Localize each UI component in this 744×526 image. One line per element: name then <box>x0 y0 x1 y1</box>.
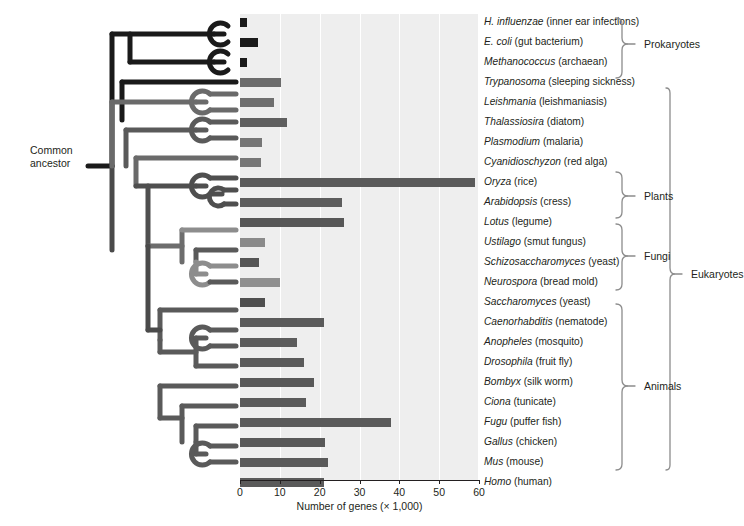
gridline-20 <box>320 14 321 480</box>
species-label-5: Thalassiosira (diatom) <box>484 116 584 127</box>
species-label-19: Ciona (tunicate) <box>484 396 556 407</box>
species-label-14: Saccharomyces (yeast) <box>484 296 590 307</box>
bar-4 <box>240 98 274 107</box>
common-ancestor-line-2: ancestor <box>30 157 110 170</box>
common-ancestor-label: Common ancestor <box>30 144 110 170</box>
species-genus: E. coli <box>484 36 512 47</box>
bar-17 <box>240 358 304 367</box>
tick-label-40: 40 <box>384 486 414 498</box>
tick-mark-30 <box>360 480 361 484</box>
bar-1 <box>240 38 258 47</box>
species-common-name: (cress) <box>537 196 571 207</box>
gridline-60 <box>479 14 480 480</box>
species-genus: Thalassiosira <box>484 116 544 127</box>
bar-7 <box>240 158 261 167</box>
bar-6 <box>240 138 262 147</box>
bar-16 <box>240 338 297 347</box>
gridline-30 <box>360 14 361 480</box>
tick-label-60: 60 <box>464 486 494 498</box>
tick-mark-0 <box>240 480 241 484</box>
phylogenetic-tree <box>0 0 240 490</box>
bar-2 <box>240 58 247 67</box>
tick-mark-60 <box>479 480 480 484</box>
species-common-name: (mosquito) <box>532 336 583 347</box>
species-common-name: (yeast) <box>556 296 590 307</box>
species-label-10: Lotus (legume) <box>484 216 552 227</box>
species-label-23: Homo (human) <box>484 476 552 487</box>
species-genus: Trypanosoma <box>484 76 546 87</box>
species-common-name: (tunicate) <box>511 396 556 407</box>
species-label-11: Ustilago (smut fungus) <box>484 236 586 247</box>
bar-18 <box>240 378 314 387</box>
tick-mark-10 <box>280 480 281 484</box>
group-brackets <box>608 0 740 490</box>
species-common-name: (silk worm) <box>521 376 573 387</box>
species-common-name: (diatom) <box>544 116 584 127</box>
species-common-name: (chicken) <box>513 436 557 447</box>
bar-8 <box>240 178 475 187</box>
species-common-name: (leishmaniasis) <box>536 96 607 107</box>
species-genus: Mus <box>484 456 503 467</box>
bar-20 <box>240 418 391 427</box>
species-common-name: (legume) <box>509 216 552 227</box>
bar-14 <box>240 298 265 307</box>
species-common-name: (human) <box>511 476 552 487</box>
species-genus: Leishmania <box>484 96 536 107</box>
species-label-8: Oryza (rice) <box>484 176 537 187</box>
species-genus: Drosophila <box>484 356 533 367</box>
species-label-15: Caenorhabditis (nematode) <box>484 316 607 327</box>
x-axis-title: Number of genes (× 1,000) <box>240 500 479 512</box>
tick-label-50: 50 <box>424 486 454 498</box>
bar-3 <box>240 78 281 87</box>
group-label-fungi: Fungi <box>644 250 670 262</box>
bar-21 <box>240 438 325 447</box>
tick-label-20: 20 <box>305 486 335 498</box>
species-label-20: Fugu (puffer fish) <box>484 416 561 427</box>
species-common-name: (nematode) <box>553 316 608 327</box>
species-genus: Methanococcus <box>484 56 555 67</box>
bar-15 <box>240 318 324 327</box>
species-genus: Gallus <box>484 436 513 447</box>
tick-label-10: 10 <box>265 486 295 498</box>
species-genus: Homo <box>484 476 511 487</box>
species-label-6: Plasmodium (malaria) <box>484 136 583 147</box>
group-label-animals: Animals <box>644 380 681 392</box>
species-common-name: (archaean) <box>555 56 607 67</box>
species-label-12: Schizosaccharomyces (yeast) <box>484 256 619 267</box>
bar-22 <box>240 458 328 467</box>
species-genus: Neurospora <box>484 276 537 287</box>
species-genus: Arabidopsis <box>484 196 537 207</box>
species-common-name: (bread mold) <box>537 276 598 287</box>
group-label-plants: Plants <box>644 190 673 202</box>
tick-mark-20 <box>320 480 321 484</box>
species-label-21: Gallus (chicken) <box>484 436 557 447</box>
species-genus: Schizosaccharomyces <box>484 256 585 267</box>
species-genus: Ciona <box>484 396 511 407</box>
species-common-name: (red alga) <box>561 156 607 167</box>
species-genus: Caenorhabditis <box>484 316 553 327</box>
species-label-18: Bombyx (silk worm) <box>484 376 573 387</box>
tick-mark-50 <box>439 480 440 484</box>
group-label-eukaryotes: Eukaryotes <box>691 268 744 280</box>
species-label-9: Arabidopsis (cress) <box>484 196 571 207</box>
species-genus: Bombyx <box>484 376 521 387</box>
species-genus: Ustilago <box>484 236 521 247</box>
species-label-4: Leishmania (leishmaniasis) <box>484 96 607 107</box>
common-ancestor-line-1: Common <box>30 144 110 157</box>
species-label-16: Anopheles (mosquito) <box>484 336 583 347</box>
species-label-7: Cyanidioschyzon (red alga) <box>484 156 607 167</box>
species-common-name: (malaria) <box>540 136 583 147</box>
bar-11 <box>240 238 265 247</box>
species-genus: Lotus <box>484 216 509 227</box>
species-genus: Plasmodium <box>484 136 540 147</box>
species-common-name: (gut bacterium) <box>512 36 583 47</box>
group-label-prokaryotes: Prokaryotes <box>644 38 700 50</box>
species-genus: Oryza <box>484 176 511 187</box>
gridline-40 <box>399 14 400 480</box>
gridline-50 <box>439 14 440 480</box>
bar-0 <box>240 18 247 27</box>
species-genus: Saccharomyces <box>484 296 556 307</box>
bar-12 <box>240 258 259 267</box>
species-genus: H. influenzae <box>484 16 543 27</box>
